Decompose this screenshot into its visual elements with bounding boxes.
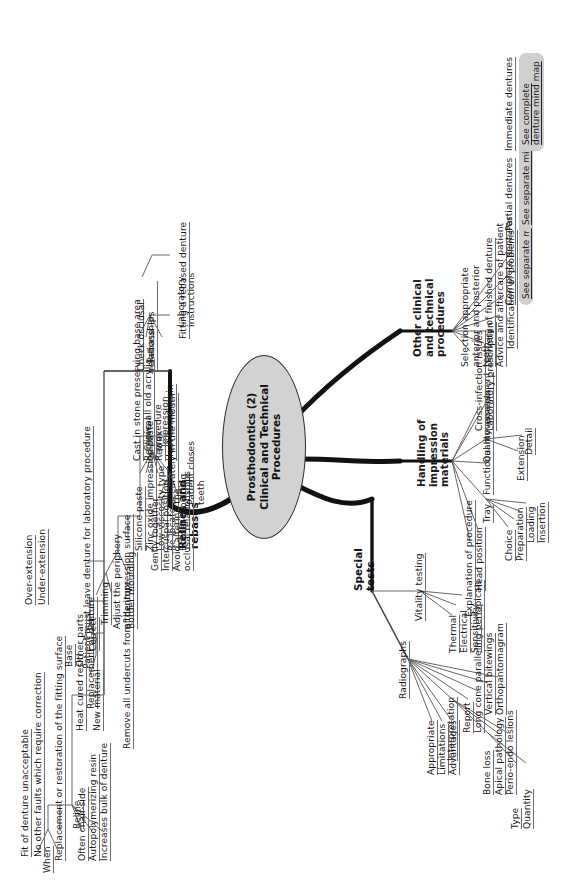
node-over-extension: Over-extension: [24, 535, 36, 605]
branch-label-other-clinical-procedures: Other clinical and technical procedures: [412, 279, 447, 358]
branch-label-special-tests: Special tests: [352, 548, 376, 591]
node-radiographs: Radiographs: [398, 641, 410, 699]
callout-immediate-dentures[interactable]: See complete denture mind map: [519, 53, 544, 151]
node-new-material: New material: [92, 669, 104, 731]
handling-line3: materials: [439, 419, 451, 487]
node-reline-item-2: Increases bulk of denture: [99, 743, 111, 861]
branch-label-handling-impression-materials: Handling of impression materials: [416, 419, 451, 487]
node-interpretation: Interpretation: [446, 697, 458, 761]
node-fitting-rebased-denture: Fitting a rebased denture: [178, 222, 190, 339]
central-title-line3: Procedures: [270, 384, 282, 510]
node-when-item-0: Fit of denture unacceptable: [20, 729, 32, 857]
node-perio-endo-lesions: Perio-endo lesions: [505, 710, 517, 795]
node-head-position: Head position: [474, 527, 486, 591]
patient-closes-teeth-line2: teeth: [196, 441, 206, 505]
other-proc-line3: procedures: [435, 279, 447, 358]
special-tests-line1: Special: [352, 548, 364, 591]
other-proc-line2: and technical: [424, 279, 436, 358]
central-title-line1: Prosthodontics (2): [245, 384, 257, 510]
node-avoid-altering-occlusal: Avoid altering the occlusal relationship…: [172, 451, 194, 571]
node-tray-item-3: Insertion: [537, 502, 549, 543]
handling-line1: Handling of: [416, 419, 428, 487]
node-tray: Tray: [482, 504, 494, 523]
central-title-line2: Clinical and Technical: [258, 384, 270, 510]
node-reline-definition: Replacement or restoration of the fittin…: [54, 636, 66, 861]
node-radiographs-more-3: Orthopantomagram: [495, 623, 507, 715]
node-bone-loss-type: Type: [510, 808, 522, 829]
node-immediate-dentures: Immediate dentures: [504, 57, 516, 151]
node-when-item-1: No other faults which require correction: [33, 672, 45, 857]
node-partial-dentures: Partial dentures: [504, 158, 516, 231]
central-node: Prosthodontics (2) Clinical and Technica…: [222, 355, 306, 539]
node-lab-item-3: Heat cured resin: [165, 384, 177, 461]
node-bone-loss: Bone loss: [482, 750, 494, 795]
node-trimming: Trimming: [100, 582, 112, 625]
node-under-extension: Under-extension: [37, 529, 49, 605]
other-proc-line1: Other clinical: [412, 279, 424, 358]
node-new-material-item-0: Heat cured resin: [75, 654, 87, 731]
callout-immediate-line2: denture mind map: [531, 59, 541, 145]
adjust-periphery-line1: Adjust the periphery: [112, 534, 122, 629]
special-tests-line2: tests: [364, 548, 376, 591]
node-check-occlusal-relationships: Check occlusal relationships: [136, 281, 158, 371]
mindmap-canvas: Prosthodontics (2) Clinical and Technica…: [0, 0, 567, 891]
node-quality-detail: Detail: [524, 428, 536, 455]
callout-immediate-line1: See complete: [521, 59, 531, 145]
handling-line2: impression: [428, 419, 440, 487]
node-vitality-testing: Vitality testing: [414, 553, 426, 621]
node-trimming-correct: Correct: [88, 617, 100, 651]
node-border-moulding-1: Border moulding: [126, 552, 138, 629]
node-bone-loss-quantity: Quantity: [522, 789, 534, 829]
